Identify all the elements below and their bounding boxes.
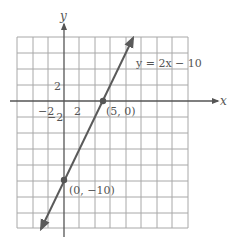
x-axis-label: x <box>220 94 227 108</box>
y-axis-label: y <box>59 9 67 23</box>
tick-label-y-2: 2 <box>54 80 61 93</box>
coordinate-plane: y x y = 2x − 10 2 −2 −2 2 (5, 0) (0, −10… <box>0 0 228 243</box>
x-intercept-point <box>100 98 106 104</box>
y-intercept-point <box>61 177 67 183</box>
equation-label: y = 2x − 10 <box>135 57 202 70</box>
tick-label-x-2: 2 <box>74 105 81 118</box>
x-intercept-label: (5, 0) <box>106 105 136 118</box>
tick-label-y-neg2: −2 <box>47 111 63 124</box>
y-intercept-label: (0, −10) <box>69 184 115 197</box>
